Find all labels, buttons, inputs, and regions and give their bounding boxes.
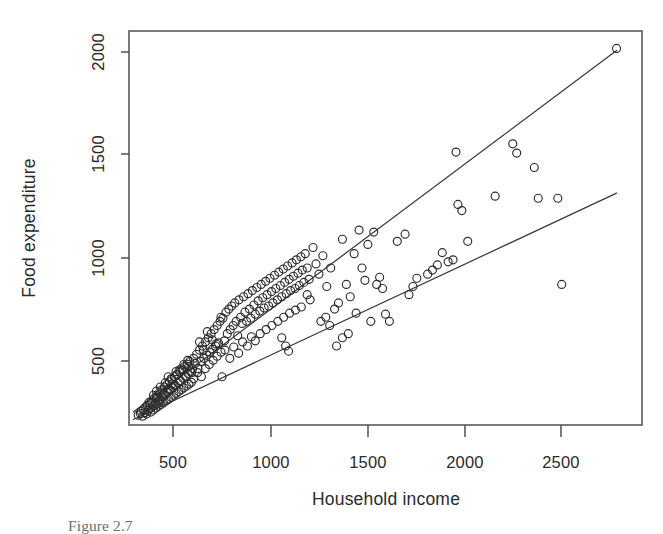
series-layer	[133, 44, 620, 420]
data-point	[344, 330, 352, 338]
data-point	[338, 235, 346, 243]
figure-caption-strip: Figure 2.7	[0, 521, 663, 534]
data-point	[449, 256, 457, 264]
data-point	[243, 342, 251, 350]
x-tick-marks	[173, 425, 561, 437]
data-point	[278, 334, 286, 342]
data-point	[413, 274, 421, 282]
data-point	[323, 282, 331, 290]
y-tick-labels: 500 1000 1500 2000	[89, 33, 107, 375]
data-point	[558, 280, 566, 288]
data-point	[534, 194, 542, 202]
data-point	[393, 237, 401, 245]
data-point	[530, 163, 538, 171]
scatter-series-households	[134, 44, 620, 420]
data-point	[401, 230, 409, 238]
y-tick-label-2000: 2000	[89, 33, 107, 71]
data-point	[379, 285, 387, 293]
data-point	[256, 330, 264, 338]
data-point	[433, 261, 441, 269]
data-point	[315, 270, 323, 278]
fit-line-lower-quantile-fit	[133, 193, 616, 419]
data-point	[322, 313, 330, 321]
data-point	[428, 266, 436, 274]
data-point	[452, 148, 460, 156]
x-axis-title: Household income	[312, 489, 460, 509]
y-tick-marks	[121, 52, 129, 361]
data-point	[444, 258, 452, 266]
x-tick-label-1500: 1500	[349, 453, 387, 471]
data-point	[361, 276, 369, 284]
data-point	[458, 207, 466, 215]
data-point	[319, 252, 327, 260]
data-point	[438, 249, 446, 257]
data-point	[309, 243, 317, 251]
data-point	[327, 264, 335, 272]
data-point	[268, 321, 276, 329]
scatter-plot-svg: Food expenditure Household income 500 10…	[0, 0, 663, 534]
data-point	[274, 317, 282, 325]
data-point	[226, 354, 234, 362]
x-tick-label-1000: 1000	[252, 453, 290, 471]
x-tick-label-2000: 2000	[446, 453, 484, 471]
data-point	[350, 250, 358, 258]
fit-line-upper-quantile-fit	[133, 50, 616, 412]
y-tick-label-1000: 1000	[89, 239, 107, 277]
data-point	[358, 264, 366, 272]
data-point	[424, 270, 432, 278]
data-point	[262, 326, 270, 334]
data-point	[385, 317, 393, 325]
data-point	[491, 192, 499, 200]
data-point	[355, 226, 363, 234]
y-tick-label-1500: 1500	[89, 135, 107, 173]
data-point	[367, 317, 375, 325]
data-point	[405, 291, 413, 299]
data-point	[376, 273, 384, 281]
data-point	[312, 260, 320, 268]
data-point	[513, 149, 521, 157]
data-point	[333, 342, 341, 350]
data-point	[509, 140, 517, 148]
data-point	[317, 317, 325, 325]
x-tick-label-2500: 2500	[542, 453, 580, 471]
y-axis-title: Food expenditure	[19, 158, 39, 297]
data-point	[303, 264, 311, 272]
data-point	[239, 338, 247, 346]
data-point	[364, 240, 372, 248]
data-point	[409, 282, 417, 290]
y-tick-label-500: 500	[89, 347, 107, 375]
figure-caption: Figure 2.7	[68, 521, 628, 534]
data-point	[342, 280, 350, 288]
data-point	[235, 349, 243, 357]
data-point	[464, 237, 472, 245]
data-point	[280, 313, 288, 321]
figure-container: Food expenditure Household income 500 10…	[0, 0, 663, 534]
data-point	[335, 299, 343, 307]
data-point	[554, 194, 562, 202]
x-tick-labels: 500 1000 1500 2000 2500	[159, 453, 580, 471]
data-point	[346, 293, 354, 301]
x-tick-label-500: 500	[159, 453, 187, 471]
data-point	[338, 334, 346, 342]
